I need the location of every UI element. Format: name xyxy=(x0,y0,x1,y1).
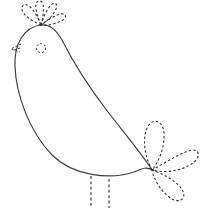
bird-line-art xyxy=(0,0,202,209)
worksheet-canvas xyxy=(0,0,202,209)
canvas-background xyxy=(0,0,202,209)
